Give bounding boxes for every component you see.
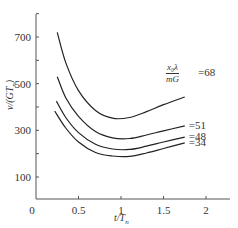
y-tick-label: 700: [15, 31, 32, 43]
line-chart: 10030050070000.511.52 =68=51=48=34: [0, 0, 238, 228]
curve-label-51: =51: [189, 119, 206, 131]
y-tick-label: 300: [15, 124, 32, 136]
axes: 10030050070000.511.52: [15, 14, 231, 216]
curve-labels: =68=51=48=34: [189, 66, 216, 148]
legend-fraction: x₀λ mG: [166, 62, 179, 85]
x-tick-label: 1.5: [157, 204, 171, 216]
curves: [55, 32, 185, 156]
x-tick-label: 2: [203, 204, 209, 216]
curve-label-68: =68: [198, 66, 216, 78]
x-tick-label: 0.5: [72, 204, 86, 216]
curve-48: [56, 101, 184, 150]
x-axis-label: t/Tn: [114, 212, 129, 226]
y-tick-label: 100: [15, 171, 32, 183]
x-tick-label: 0: [29, 204, 35, 216]
curve-label-34: =34: [189, 136, 207, 148]
y-axis-label: v/(GTn): [4, 80, 18, 110]
